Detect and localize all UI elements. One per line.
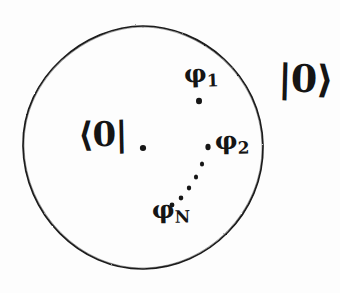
dot-bra (140, 145, 146, 151)
sketch-canvas (0, 0, 340, 293)
phi-2-label: φ2 (215, 128, 250, 157)
dot-phi2 (205, 144, 210, 150)
ket-zero-label: |0⟩ (278, 59, 334, 98)
phi-1-symbol: φ (183, 59, 207, 89)
phi-1-label: φ1 (184, 60, 219, 90)
bra-zero-label: ⟨0| (78, 116, 127, 151)
phi-2-subscript: 2 (238, 137, 250, 157)
phi-1-subscript: 1 (206, 70, 219, 90)
dot-phi1 (196, 98, 202, 104)
phi-2-symbol: φ (215, 126, 238, 155)
phi-n-symbol: φ (152, 195, 175, 224)
state-dots (140, 98, 211, 151)
figure-root: ⟨0| |0⟩ φ1 φ2 φN (0, 0, 340, 293)
phi-n-label: φN (152, 197, 191, 226)
phi-n-subscript: N (175, 206, 191, 226)
